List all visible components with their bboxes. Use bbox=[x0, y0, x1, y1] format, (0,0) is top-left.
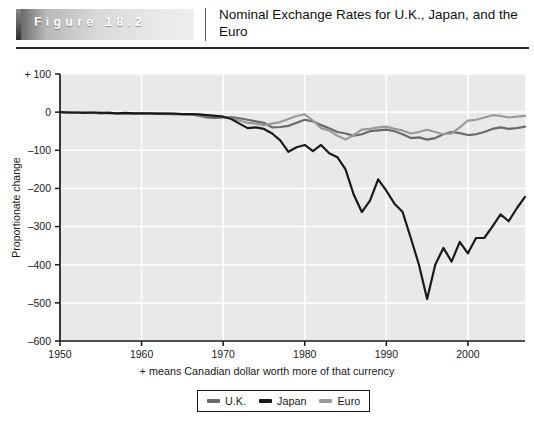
y-tick-label: –500 bbox=[28, 297, 52, 309]
x-tick-label: 1950 bbox=[48, 348, 72, 360]
legend-item-japan[interactable]: Japan bbox=[259, 395, 306, 407]
y-tick-label: –100 bbox=[28, 144, 52, 156]
y-tick-label: –400 bbox=[28, 259, 52, 271]
x-tick-label: 1990 bbox=[375, 348, 399, 360]
figure-title: Nominal Exchange Rates for U.K., Japan, … bbox=[219, 6, 519, 40]
y-tick-label: + 100 bbox=[24, 68, 51, 80]
legend-label-japan: Japan bbox=[277, 395, 306, 407]
legend-label-uk: U.K. bbox=[225, 395, 246, 407]
header-divider bbox=[205, 8, 206, 41]
header-rule bbox=[16, 47, 529, 49]
chart-legend: U.K. Japan Euro bbox=[197, 390, 370, 412]
y-tick-label: –300 bbox=[28, 220, 52, 232]
chart-footnote: + means Canadian dollar worth more of th… bbox=[0, 365, 534, 377]
y-axis-title: Proportionate change bbox=[10, 157, 22, 258]
legend-item-euro[interactable]: Euro bbox=[319, 395, 360, 407]
exchange-rate-line-chart: + 1000–100–200–300–400–500–6001950196019… bbox=[0, 52, 534, 382]
y-tick-label: 0 bbox=[45, 106, 51, 118]
legend-label-euro: Euro bbox=[337, 395, 360, 407]
x-tick-label: 1960 bbox=[130, 348, 154, 360]
legend-swatch-uk bbox=[207, 399, 220, 403]
legend-swatch-japan bbox=[259, 399, 272, 403]
figure-header: Figure 18.2 Nominal Exchange Rates for U… bbox=[0, 0, 534, 49]
legend-swatch-euro bbox=[319, 399, 332, 403]
legend-item-uk[interactable]: U.K. bbox=[207, 395, 246, 407]
y-tick-label: –600 bbox=[28, 335, 52, 347]
x-tick-label: 2000 bbox=[456, 348, 480, 360]
chart-container: + 1000–100–200–300–400–500–6001950196019… bbox=[0, 52, 534, 382]
x-tick-label: 1980 bbox=[293, 348, 317, 360]
y-tick-label: –200 bbox=[28, 182, 52, 194]
x-tick-label: 1970 bbox=[211, 348, 235, 360]
figure-number-label: Figure 18.2 bbox=[34, 15, 146, 29]
